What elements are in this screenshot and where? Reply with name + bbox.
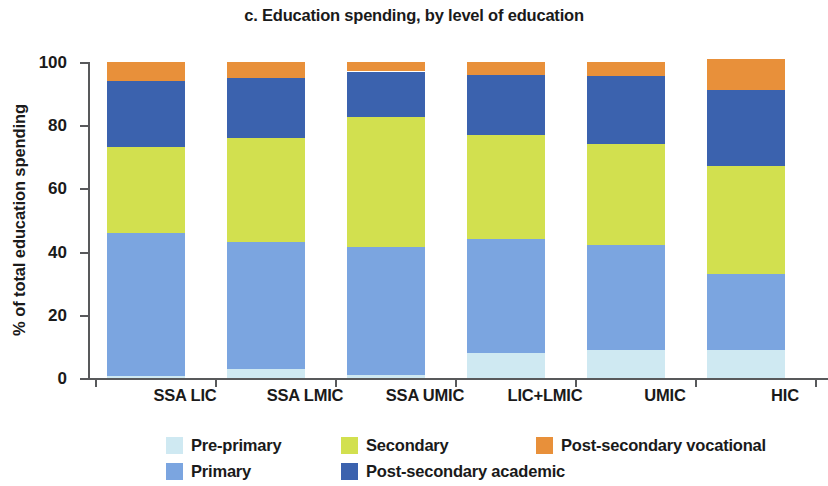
x-tick-end — [815, 378, 817, 387]
legend-item[interactable]: Pre-primary — [166, 436, 341, 455]
y-tick-40: 40 — [80, 252, 88, 254]
bar-segment[interactable] — [107, 62, 185, 81]
stacked-bar[interactable] — [587, 62, 665, 378]
y-axis-label: % of total education spending — [10, 62, 36, 378]
bar-segment[interactable] — [467, 75, 545, 135]
stacked-bar[interactable] — [107, 62, 185, 378]
y-tick-label-80: 80 — [48, 116, 67, 136]
x-tick-2 — [335, 378, 337, 387]
x-tick-1 — [215, 378, 217, 387]
stacked-bar[interactable] — [347, 62, 425, 378]
bar-segment[interactable] — [587, 144, 665, 245]
x-axis-line — [88, 378, 828, 380]
bar-segment[interactable] — [467, 62, 545, 75]
x-axis-label-5: HIC — [705, 386, 828, 405]
y-tick-label-40: 40 — [48, 243, 67, 263]
bar-segment[interactable] — [707, 59, 785, 91]
y-tick-label-100: 100 — [39, 53, 67, 73]
bar-segment[interactable] — [587, 245, 665, 349]
legend-swatch-icon — [166, 463, 183, 480]
bar-segment[interactable] — [347, 72, 425, 118]
chart-legend: Pre-primarySecondaryPost-secondary vocat… — [166, 432, 806, 484]
x-tick-0 — [95, 378, 97, 387]
bar-segment[interactable] — [707, 274, 785, 350]
bar-segment[interactable] — [347, 117, 425, 247]
bar-segment[interactable] — [467, 353, 545, 378]
y-axis-line — [88, 62, 90, 379]
bar-segment[interactable] — [107, 81, 185, 147]
legend-item[interactable]: Post-secondary vocational — [536, 436, 806, 455]
bar-segment[interactable] — [227, 62, 305, 78]
y-tick-label-20: 20 — [48, 306, 67, 326]
legend-label: Post-secondary vocational — [561, 436, 766, 455]
y-tick-60: 60 — [80, 188, 88, 190]
legend-label: Pre-primary — [191, 436, 281, 455]
x-tick-3 — [455, 378, 457, 387]
plot-area: 100806040200 SSA LICSSA LMICSSA UMICLIC+… — [88, 62, 828, 378]
bar-segment[interactable] — [347, 375, 425, 378]
y-tick-label-60: 60 — [48, 179, 67, 199]
stacked-bar[interactable] — [227, 62, 305, 378]
bar-segment[interactable] — [227, 138, 305, 242]
bar-segment[interactable] — [467, 239, 545, 353]
y-tick-80: 80 — [80, 125, 88, 127]
bar-segment[interactable] — [107, 376, 185, 378]
legend-item[interactable]: Secondary — [341, 436, 536, 455]
bar-segment[interactable] — [707, 350, 785, 378]
legend-item[interactable]: Primary — [166, 462, 341, 481]
legend-label: Primary — [191, 462, 251, 481]
stacked-bar[interactable] — [467, 62, 545, 378]
y-tick-0: 0 — [80, 378, 88, 380]
bar-segment[interactable] — [227, 369, 305, 378]
bar-segment[interactable] — [587, 350, 665, 378]
bar-segment[interactable] — [347, 62, 425, 71]
y-tick-label-0: 0 — [58, 369, 67, 389]
bar-segment[interactable] — [707, 90, 785, 166]
bar-segment[interactable] — [107, 233, 185, 377]
legend-swatch-icon — [536, 437, 553, 454]
x-tick-5 — [695, 378, 697, 387]
legend-item[interactable]: Post-secondary academic — [341, 462, 536, 481]
legend-swatch-icon — [341, 437, 358, 454]
bar-segment[interactable] — [347, 247, 425, 375]
bar-segment[interactable] — [107, 147, 185, 232]
bar-segment[interactable] — [587, 76, 665, 144]
bar-segment[interactable] — [467, 135, 545, 239]
y-tick-20: 20 — [80, 315, 88, 317]
legend-swatch-icon — [341, 463, 358, 480]
legend-label: Secondary — [366, 436, 449, 455]
chart-title: c. Education spending, by level of educa… — [0, 6, 828, 25]
legend-swatch-icon — [166, 437, 183, 454]
bar-segment[interactable] — [227, 78, 305, 138]
y-tick-100: 100 — [80, 62, 88, 64]
stacked-bar[interactable] — [707, 59, 785, 378]
legend-label: Post-secondary academic — [366, 462, 565, 481]
bar-segment[interactable] — [707, 166, 785, 273]
chart-root: c. Education spending, by level of educa… — [0, 0, 828, 486]
bar-segment[interactable] — [227, 242, 305, 368]
x-tick-4 — [575, 378, 577, 387]
bar-segment[interactable] — [587, 62, 665, 76]
